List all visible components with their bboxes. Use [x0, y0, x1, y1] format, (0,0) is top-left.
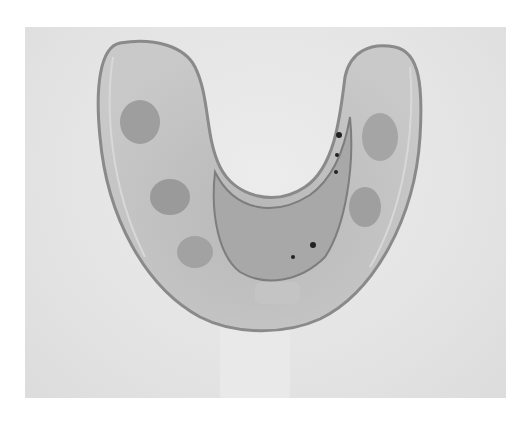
dark-spot	[336, 132, 342, 138]
dark-spot	[334, 170, 338, 174]
photo	[25, 27, 506, 398]
front-tooth-impression	[255, 282, 300, 304]
dark-spot	[310, 242, 316, 248]
tooth-impression	[150, 179, 190, 215]
tooth-impression	[120, 100, 160, 144]
tooth-impression	[177, 236, 213, 268]
tooth-impression	[362, 113, 398, 161]
dark-spot	[291, 255, 295, 259]
dark-spot	[335, 153, 339, 157]
dental-tray-illustration	[25, 27, 506, 398]
tooth-impression	[349, 187, 381, 227]
